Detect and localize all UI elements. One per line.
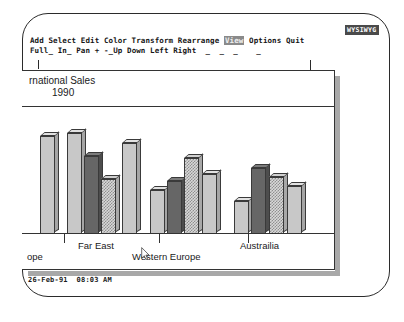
category-divider (159, 234, 160, 243)
menu-tool-down[interactable]: Down (127, 46, 145, 55)
menu-item-view[interactable]: View (224, 36, 244, 45)
plot-area[interactable] (22, 108, 335, 234)
menu-item-quit[interactable]: Quit (286, 36, 304, 45)
bar-3[interactable] (101, 179, 116, 234)
menu-spacer (238, 46, 256, 55)
status-bar: 26-Feb-91 08:03 AM (28, 276, 112, 284)
bar-10[interactable] (251, 168, 266, 234)
bar-4[interactable] (122, 143, 137, 234)
bar-7[interactable] (184, 158, 199, 234)
bar-front-face (122, 143, 137, 234)
category-label-3: Austrailia (240, 240, 279, 251)
bar-front-face (101, 179, 116, 234)
bar-12[interactable] (287, 186, 302, 234)
bar-front-face (84, 156, 99, 234)
chart-subtitle: 1990 (52, 87, 74, 98)
bar-side-face (217, 170, 221, 232)
bar-5[interactable] (150, 190, 165, 234)
menu-item-select[interactable]: Select (48, 36, 76, 45)
bar-front-face (269, 177, 284, 234)
bar-front-face (67, 133, 82, 234)
bar-2[interactable] (84, 156, 99, 234)
category-divider (64, 234, 65, 243)
menu-tool-pan[interactable]: Pan (76, 46, 90, 55)
category-label-band: ope Far East Western Europe Austrailia (22, 234, 335, 270)
bar-9[interactable] (234, 201, 249, 234)
chart-window[interactable]: rnational Sales 1990 ope Far East Wester… (22, 70, 335, 270)
menu-tick-mark (38, 60, 39, 69)
bar-front-face (251, 168, 266, 234)
chart-title-band: rnational Sales 1990 (22, 71, 335, 107)
menu-item-color[interactable]: Color (104, 36, 127, 45)
bar-side-face (302, 182, 306, 232)
bar-11[interactable] (269, 177, 284, 234)
bar-6[interactable] (167, 181, 182, 234)
bar-8[interactable] (202, 174, 217, 234)
bar-side-face (137, 139, 141, 232)
bar-side-face (55, 132, 59, 232)
bar-side-face (116, 175, 120, 232)
bar-0[interactable] (40, 136, 55, 234)
bar-front-face (184, 158, 199, 234)
menu-tool-right[interactable]: Right (173, 46, 196, 55)
menu-item-rearrange[interactable]: Rearrange (178, 36, 220, 45)
category-label-0: ope (27, 251, 43, 262)
menu-item-add[interactable]: Add (30, 36, 44, 45)
bar-front-face (287, 186, 302, 234)
menu-item-transform[interactable]: Transform (132, 36, 174, 45)
menu-item-options[interactable]: Options (249, 36, 281, 45)
chart-title: rnational Sales (29, 75, 95, 86)
bar-1[interactable] (67, 133, 82, 234)
menu-tool-[interactable]: _ (256, 46, 261, 55)
bar-front-face (202, 174, 217, 234)
bar-front-face (40, 136, 55, 234)
bar-front-face (234, 201, 249, 234)
menu-item-edit[interactable]: Edit (81, 36, 99, 45)
screen: Add Select Edit Color Transform Rearrang… (0, 0, 404, 322)
category-label-1: Far East (78, 240, 114, 251)
menu-tool-in[interactable]: In_ (58, 46, 72, 55)
menu-tool-up[interactable]: -_Up (104, 46, 122, 55)
menu-spacer (210, 46, 219, 55)
menu-bar: Add Select Edit Color Transform Rearrang… (30, 36, 380, 62)
menu-spacer (224, 46, 233, 55)
menu-tool-full[interactable]: Full_ (30, 46, 53, 55)
menu-row-secondary: Full_ In_ Pan + -_Up Down Left Right _ _… (30, 46, 380, 55)
mouse-cursor-arrow-icon (141, 247, 150, 260)
bar-front-face (167, 181, 182, 234)
menu-tool-left[interactable]: Left (150, 46, 168, 55)
window-shadow-right (335, 76, 340, 276)
bar-front-face (150, 190, 165, 234)
wysiwyg-mode-badge: WYSIWYG (345, 25, 379, 35)
menu-spacer (196, 46, 205, 55)
menu-row-primary: Add Select Edit Color Transform Rearrang… (30, 36, 380, 45)
